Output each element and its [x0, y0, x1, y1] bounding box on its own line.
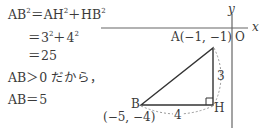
point-h-label: H: [214, 102, 224, 115]
triangle-abh: [141, 48, 213, 105]
point-b-coords: (−5, −4): [103, 111, 155, 124]
side-ah-label: 3: [217, 70, 225, 83]
side-bh-label: 4: [173, 109, 183, 122]
right-angle-mark: [206, 98, 213, 105]
origin-label: O: [235, 31, 245, 44]
axis-x-label: x: [252, 21, 259, 34]
axis-y-label: y: [228, 3, 235, 16]
point-a-label: A(−1, −1): [171, 31, 232, 44]
